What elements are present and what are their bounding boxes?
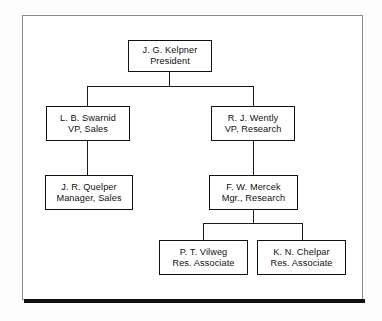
- org-node-name: J. R. Quelper: [61, 182, 116, 193]
- org-node-name: K. N. Chelpar: [273, 247, 329, 258]
- org-node-name: J. G. Kelpner: [143, 45, 198, 56]
- org-node-title: Res. Associate: [270, 258, 332, 269]
- org-node-mgr-research[interactable]: F. W. Mercek Mgr., Research: [209, 175, 298, 210]
- org-node-title: VP, Sales: [68, 124, 108, 135]
- connector-to-res-associate-2: [302, 223, 303, 240]
- org-node-mgr-sales[interactable]: J. R. Quelper Manager, Sales: [45, 175, 133, 210]
- org-node-name: P. T. Vilweg: [180, 247, 228, 258]
- org-node-title: Res. Associate: [172, 258, 234, 269]
- org-node-title: Manager, Sales: [56, 193, 121, 204]
- connector-vp-research-to-mgr-research: [253, 141, 254, 175]
- connector-vp-sales-to-mgr-sales: [87, 141, 88, 175]
- connector-level1-bar: [87, 86, 253, 87]
- org-node-name: F. W. Mercek: [226, 182, 280, 193]
- connector-to-vp-research: [253, 86, 254, 106]
- connector-to-res-associate-1: [203, 223, 204, 240]
- connector-mgr-research-down: [253, 210, 254, 224]
- org-node-res-associate-1[interactable]: P. T. Vilweg Res. Associate: [159, 240, 248, 275]
- org-node-title: Mgr., Research: [222, 193, 286, 204]
- org-node-name: R. J. Wently: [228, 113, 279, 124]
- connector-to-vp-sales: [87, 86, 88, 106]
- org-chart-canvas: J. G. Kelpner President L. B. Swarnid VP…: [0, 0, 382, 321]
- org-node-title: President: [150, 56, 190, 67]
- org-node-res-associate-2[interactable]: K. N. Chelpar Res. Associate: [257, 240, 346, 275]
- org-node-name: L. B. Swarnid: [60, 113, 116, 124]
- connector-president-down: [169, 72, 170, 87]
- org-node-vp-research[interactable]: R. J. Wently VP, Research: [211, 106, 295, 141]
- org-node-vp-sales[interactable]: L. B. Swarnid VP, Sales: [46, 106, 130, 141]
- org-node-president[interactable]: J. G. Kelpner President: [128, 40, 212, 72]
- connector-level3-bar: [203, 223, 303, 224]
- org-chart-page: J. G. Kelpner President L. B. Swarnid VP…: [0, 0, 382, 321]
- org-node-title: VP, Research: [225, 124, 282, 135]
